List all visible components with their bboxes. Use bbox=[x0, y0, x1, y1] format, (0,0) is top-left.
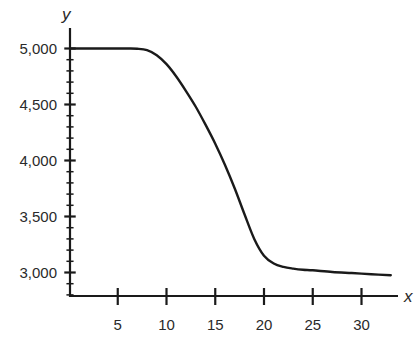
x-tick-label: 25 bbox=[304, 316, 321, 333]
x-tick-label: 15 bbox=[207, 316, 224, 333]
y-axis-label: y bbox=[61, 5, 72, 24]
y-axis-ticks: 3,0003,5004,0004,5005,000 bbox=[19, 40, 75, 295]
x-tick-label: 20 bbox=[256, 316, 273, 333]
x-axis-ticks: 51015202530 bbox=[114, 288, 370, 333]
x-tick-label: 10 bbox=[158, 316, 175, 333]
y-tick-label: 4,500 bbox=[19, 96, 57, 113]
y-tick-label: 5,000 bbox=[19, 40, 57, 57]
line-chart: 3,0003,5004,0004,5005,000 51015202530 y … bbox=[0, 0, 420, 342]
x-tick-label: 5 bbox=[114, 316, 122, 333]
x-tick-label: 30 bbox=[353, 316, 370, 333]
x-axis-label: x bbox=[403, 287, 413, 306]
y-tick-label: 3,500 bbox=[19, 208, 57, 225]
data-curve bbox=[70, 48, 391, 275]
y-tick-label: 3,000 bbox=[19, 264, 57, 281]
y-tick-label: 4,000 bbox=[19, 152, 57, 169]
